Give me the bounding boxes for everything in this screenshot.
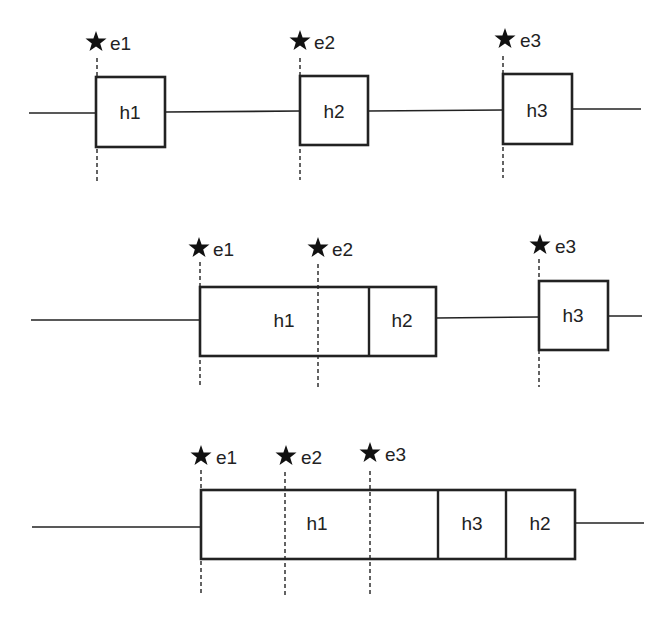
box-label: h1 [119, 102, 140, 123]
event-label: e1 [110, 33, 131, 54]
event-label: e3 [520, 30, 541, 51]
row-1: h1 h2 h3 e1 e2 e3 [29, 28, 641, 182]
box-label: h2 [529, 513, 550, 534]
star-icon [290, 30, 311, 50]
timeline-diagram: h1 h2 h3 e1 e2 e3 h1 h2 h3 e1 e2 e3 [0, 0, 668, 617]
box-label: h2 [323, 101, 344, 122]
box-label: h3 [562, 305, 583, 326]
star-icon [276, 445, 297, 465]
row-3: h1 h3 h2 e1 e2 e3 [32, 442, 644, 596]
event-label: e2 [332, 239, 353, 260]
star-icon [191, 445, 212, 465]
box-h1-h3-h2 [201, 490, 575, 559]
event-label: e3 [385, 444, 406, 465]
event-label: e3 [555, 236, 576, 257]
row-2: h1 h2 h3 e1 e2 e3 [31, 234, 642, 388]
star-icon [495, 28, 516, 48]
box-label: h1 [273, 310, 294, 331]
timeline-line [368, 110, 503, 111]
star-icon [189, 237, 210, 257]
box-label: h3 [526, 100, 547, 121]
event-label: e2 [301, 447, 322, 468]
box-label: h2 [391, 310, 412, 331]
star-icon [360, 442, 381, 462]
timeline-line [165, 111, 300, 112]
box-label: h3 [461, 513, 482, 534]
star-icon [86, 31, 107, 51]
event-label: e1 [213, 239, 234, 260]
timeline-line [436, 317, 539, 318]
box-label: h1 [306, 513, 327, 534]
event-label: e2 [314, 32, 335, 53]
star-icon [308, 237, 329, 257]
star-icon [530, 234, 551, 254]
event-label: e1 [216, 447, 237, 468]
